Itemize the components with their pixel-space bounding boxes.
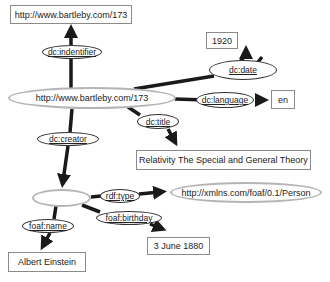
identifier-literal-box: http://www.bartleby.com/173 — [10, 5, 132, 24]
edge-creator — [70, 109, 72, 132]
birthday-literal-box: 3 June 1880 — [147, 237, 210, 255]
date-literal-box: 1920 — [206, 32, 238, 49]
edge-title — [128, 107, 140, 115]
prop-dc-identifier: dc:indentifier — [42, 45, 102, 59]
prop-dc-language: dc:language — [196, 92, 254, 108]
name-literal-box: Albert Einstein — [8, 252, 86, 272]
prop-dc-date: dc:date — [209, 60, 277, 80]
edge-name — [54, 206, 56, 219]
edge-date — [134, 76, 214, 89]
title-literal-box: Relativity The Special and General Theor… — [136, 150, 311, 170]
rdf-graph-diagram: http://www.bartleby.com/173 1920 en Rela… — [0, 0, 330, 282]
language-literal-box: en — [271, 90, 295, 109]
blank-creator-node — [32, 189, 91, 207]
prop-foaf-birthday: foaf:birthday — [96, 211, 162, 225]
prop-foaf-name: foaf:name — [22, 219, 74, 233]
prop-rdf-type: rdf:type — [100, 189, 140, 203]
subject-resource-node: http://www.bartleby.com/173 — [8, 87, 176, 109]
prop-dc-creator: dc:creator — [37, 132, 99, 146]
prop-dc-title: dc:title — [137, 114, 179, 129]
person-type-node: http://xmlns.com/foaf/0.1/Person — [170, 182, 322, 203]
edge-birthday — [82, 205, 100, 212]
